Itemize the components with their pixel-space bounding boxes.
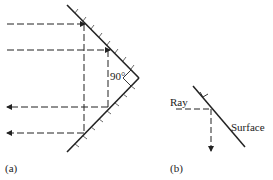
incoming-rays <box>7 24 110 50</box>
ray-label: Ray <box>170 96 188 108</box>
outgoing-rays <box>7 107 108 133</box>
panel-a: 90° (a) <box>5 5 139 175</box>
lower-mirror <box>67 78 139 152</box>
angle-label: 90° <box>110 70 125 82</box>
internal-rays <box>84 24 108 133</box>
surface-line <box>193 86 245 147</box>
reflection-diagram: 90° (a) Ray Surface (b) <box>0 0 273 180</box>
surface-label: Surface <box>231 121 265 133</box>
panel-a-label: (a) <box>5 162 18 175</box>
panel-b: Ray Surface (b) <box>170 86 265 175</box>
panel-b-label: (b) <box>170 162 183 175</box>
upper-mirror <box>67 5 139 78</box>
